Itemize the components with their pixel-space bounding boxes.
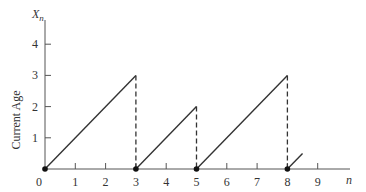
y-tick-label: 4	[32, 37, 38, 51]
dashed-drop-lines	[136, 75, 288, 169]
y-tick-label: 3	[32, 68, 38, 82]
x-tick-label: 2	[103, 175, 109, 189]
y-axis-label: Current Age	[9, 91, 23, 150]
sawtooth-series	[45, 75, 303, 169]
renewal-point-dot	[133, 166, 139, 172]
y-tick-label: 1	[32, 131, 38, 145]
renewal-point-dot	[285, 166, 291, 172]
x-tick-label: 6	[224, 175, 230, 189]
axes	[45, 20, 350, 169]
y-tick-label: 2	[32, 100, 38, 114]
renewal-point-dot	[42, 166, 48, 172]
x-tick-label: 3	[133, 175, 139, 189]
x-axis-ticks: 0123456789	[36, 163, 321, 189]
renewal-point-dot	[194, 166, 200, 172]
x-axis-label: n	[346, 173, 352, 187]
age-segment	[136, 107, 197, 169]
x-tick-label: 0	[36, 175, 42, 189]
x-tick-label: 5	[194, 175, 200, 189]
current-age-chart: 0123456789 1234 n Current Age Xn	[0, 0, 366, 192]
y-axis-symbol: Xn	[31, 7, 44, 23]
age-segment	[287, 153, 302, 169]
x-tick-label: 8	[284, 175, 290, 189]
y-axis-ticks: 1234	[32, 37, 51, 145]
x-tick-label: 1	[72, 175, 78, 189]
x-tick-label: 9	[315, 175, 321, 189]
age-segment	[197, 75, 288, 169]
age-segment	[45, 75, 136, 169]
x-tick-label: 7	[254, 175, 260, 189]
x-tick-label: 4	[163, 175, 169, 189]
